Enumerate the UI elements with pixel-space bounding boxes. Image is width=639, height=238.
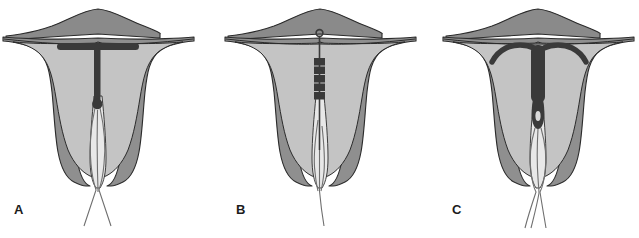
iud-eyelet: [535, 111, 540, 121]
capsule-segment: [314, 58, 325, 66]
iud-stem: [94, 48, 101, 103]
panel-a: A: [0, 0, 200, 238]
panel-b-label: B: [236, 203, 245, 216]
panel-a-label: A: [14, 203, 23, 216]
iud-stem-bulb: [92, 99, 102, 109]
fundus-dome: [6, 9, 160, 40]
iud-capsule-segments: [314, 58, 325, 100]
panel-b: B: [222, 0, 422, 238]
fundus-dome: [228, 9, 382, 40]
panel-c-label: C: [452, 203, 461, 216]
fundus-dome: [446, 9, 600, 40]
capsule-segment: [314, 67, 325, 75]
capsule-segment: [314, 92, 325, 100]
capsule-segment: [314, 84, 325, 92]
panel-c: C: [440, 0, 639, 238]
iud-body: [531, 45, 545, 103]
capsule-segment: [314, 75, 325, 83]
